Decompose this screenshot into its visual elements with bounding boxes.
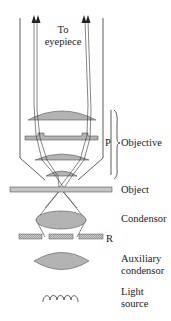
light-label-line1: Light [121,286,148,298]
object-stage [10,187,112,192]
condensor-label: Condensor [121,213,167,225]
auxiliary-label-line1: Auxiliary [121,253,164,265]
eyepiece-label-line2: eyepiece [43,36,83,48]
auxiliary-condensor-lens [34,253,89,270]
objective-brace [114,110,120,179]
objective-label: Objective [121,137,162,149]
object-label: Object [121,184,149,196]
arrowheads [32,15,91,23]
eyepiece-label-line1: To [43,24,83,36]
r-label: R [106,233,113,245]
light-rays [34,20,91,237]
objective-lenses [25,111,98,176]
condensor-lens [36,211,86,229]
p-label: P [105,137,111,149]
light-source-coil-icon [43,296,78,303]
eyepiece-label: To eyepiece [43,24,83,48]
auxiliary-label-line2: condensor [121,265,164,277]
light-source-label: Light source [121,286,148,310]
auxiliary-condensor-label: Auxiliary condensor [121,253,164,277]
light-label-line2: source [121,298,148,310]
diaphragm-r [19,234,103,239]
